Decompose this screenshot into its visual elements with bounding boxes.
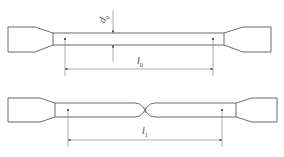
original-specimen-outline: [8, 27, 271, 52]
original-specimen: [8, 27, 271, 52]
fractured-specimen-outline: [8, 98, 277, 122]
fractured-specimen: [8, 98, 277, 122]
original-gauge-length-label: l0: [137, 56, 143, 68]
fractured-gauge-length-label: l1: [142, 126, 148, 138]
